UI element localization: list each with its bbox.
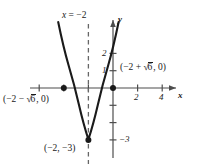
axis-label-variable: x: [62, 10, 66, 20]
left-root-open: (−2: [3, 94, 16, 104]
right-root-operator: +: [136, 62, 141, 72]
right-root-radicand: 6: [148, 62, 154, 73]
axis-label-value: −2: [76, 10, 86, 20]
x-tick-label-2: 2: [134, 93, 139, 102]
coordinate-plane-svg: [0, 0, 201, 167]
right-root-close: , 0): [153, 62, 166, 72]
left-root-operator: −: [19, 94, 24, 104]
left-root-radical: √6: [26, 94, 36, 105]
vertex-label: (−2, −3): [44, 144, 75, 154]
right-root-label: (−2 + √6, 0): [120, 62, 166, 73]
axis-of-symmetry-label: x = −2: [62, 11, 86, 21]
y-axis-name: y: [118, 15, 122, 24]
left-root-close: , 0): [36, 94, 49, 104]
right-root-point: [110, 85, 116, 91]
y-tick-label-2: 2: [102, 49, 107, 58]
right-root-open: (−2: [120, 62, 133, 72]
graph-figure: x = −2 y x 2 1 −3 2 4 (−2 − √6, 0) (−2 +…: [0, 0, 201, 167]
left-root-label: (−2 − √6, 0): [3, 94, 49, 105]
left-root-radicand: 6: [31, 94, 37, 105]
right-root-radical: √6: [143, 62, 153, 73]
y-tick-label-1: 1: [102, 66, 107, 75]
x-tick-label-4: 4: [159, 93, 164, 102]
left-root-point: [61, 85, 67, 91]
vertex-point: [85, 137, 91, 143]
x-axis-name: x: [178, 91, 183, 100]
axis-label-equals: =: [69, 10, 74, 20]
y-tick-label-neg3: −3: [119, 135, 130, 144]
